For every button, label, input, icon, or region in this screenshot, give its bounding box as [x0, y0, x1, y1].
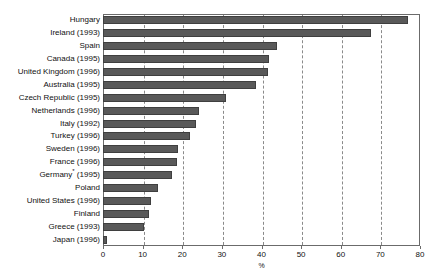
bar-row [103, 14, 420, 27]
bar-row [103, 91, 420, 104]
category-axis-labels: HungaryIreland (1993)SpainCanada (1995)U… [0, 14, 100, 246]
x-tick-label-50: 50 [288, 251, 314, 259]
x-tick-mark-60 [341, 246, 342, 249]
bar-row [103, 233, 420, 246]
x-tick-mark-30 [222, 246, 223, 249]
x-tick-label-60: 60 [328, 251, 354, 259]
x-axis-title: % [249, 262, 275, 269]
bar [103, 29, 371, 37]
bar [103, 120, 196, 128]
bar-chart: HungaryIreland (1993)SpainCanada (1995)U… [0, 0, 427, 274]
bar [103, 184, 158, 192]
bar [103, 171, 172, 179]
category-label: Hungary [0, 16, 100, 24]
x-tick-label-20: 20 [169, 251, 195, 259]
x-tick-mark-50 [301, 246, 302, 249]
x-tick-label-30: 30 [209, 251, 235, 259]
bar [103, 68, 268, 76]
bar-row [103, 104, 420, 117]
bar-row [103, 156, 420, 169]
bar [103, 107, 199, 115]
bar-row [103, 40, 420, 53]
bars-layer [103, 14, 420, 246]
category-label: France (1996) [0, 158, 100, 166]
bar [103, 42, 277, 50]
x-tick-label-10: 10 [130, 251, 156, 259]
x-tick-label-40: 40 [249, 251, 275, 259]
x-tick-mark-10 [143, 246, 144, 249]
category-label: Sweden (1996) [0, 145, 100, 153]
category-label: Spain [0, 42, 100, 50]
category-label: Australia (1995) [0, 81, 100, 89]
bar [103, 197, 151, 205]
bar-row [103, 182, 420, 195]
x-tick-label-0: 0 [90, 251, 116, 259]
bar-row [103, 53, 420, 66]
category-label: Japan (1996) [0, 236, 100, 244]
category-label: United Kingdom (1996) [0, 68, 100, 76]
x-tick-label-70: 70 [367, 251, 393, 259]
x-tick-mark-0 [103, 246, 104, 249]
bar-row [103, 130, 420, 143]
bar [103, 236, 107, 244]
bar-row [103, 207, 420, 220]
category-label: Germany* (1995) [0, 171, 100, 179]
x-tick-mark-40 [262, 246, 263, 249]
category-label: Netherlands (1996) [0, 107, 100, 115]
category-label: United States (1996) [0, 197, 100, 205]
category-label: Czech Republic (1995) [0, 94, 100, 102]
category-label: Canada (1995) [0, 55, 100, 63]
bar-row [103, 66, 420, 79]
bar [103, 210, 149, 218]
category-label: Italy (1992) [0, 120, 100, 128]
category-label: Poland [0, 184, 100, 192]
category-label: Finland [0, 210, 100, 218]
x-tick-mark-20 [182, 246, 183, 249]
bar-row [103, 117, 420, 130]
bar-row [103, 143, 420, 156]
bar [103, 145, 178, 153]
bar [103, 132, 190, 140]
bar [103, 94, 226, 102]
category-label: Greece (1993) [0, 223, 100, 231]
bar [103, 55, 269, 63]
bar [103, 223, 144, 231]
bar-row [103, 78, 420, 91]
bar-row [103, 220, 420, 233]
bar-row [103, 169, 420, 182]
x-tick-mark-80 [420, 246, 421, 249]
bar [103, 16, 408, 24]
category-label: Ireland (1993) [0, 29, 100, 37]
category-label: Turkey (1996) [0, 132, 100, 140]
x-tick-mark-70 [380, 246, 381, 249]
bar [103, 158, 177, 166]
bar-row [103, 27, 420, 40]
bar [103, 81, 256, 89]
x-tick-label-80: 80 [407, 251, 427, 259]
bar-row [103, 194, 420, 207]
